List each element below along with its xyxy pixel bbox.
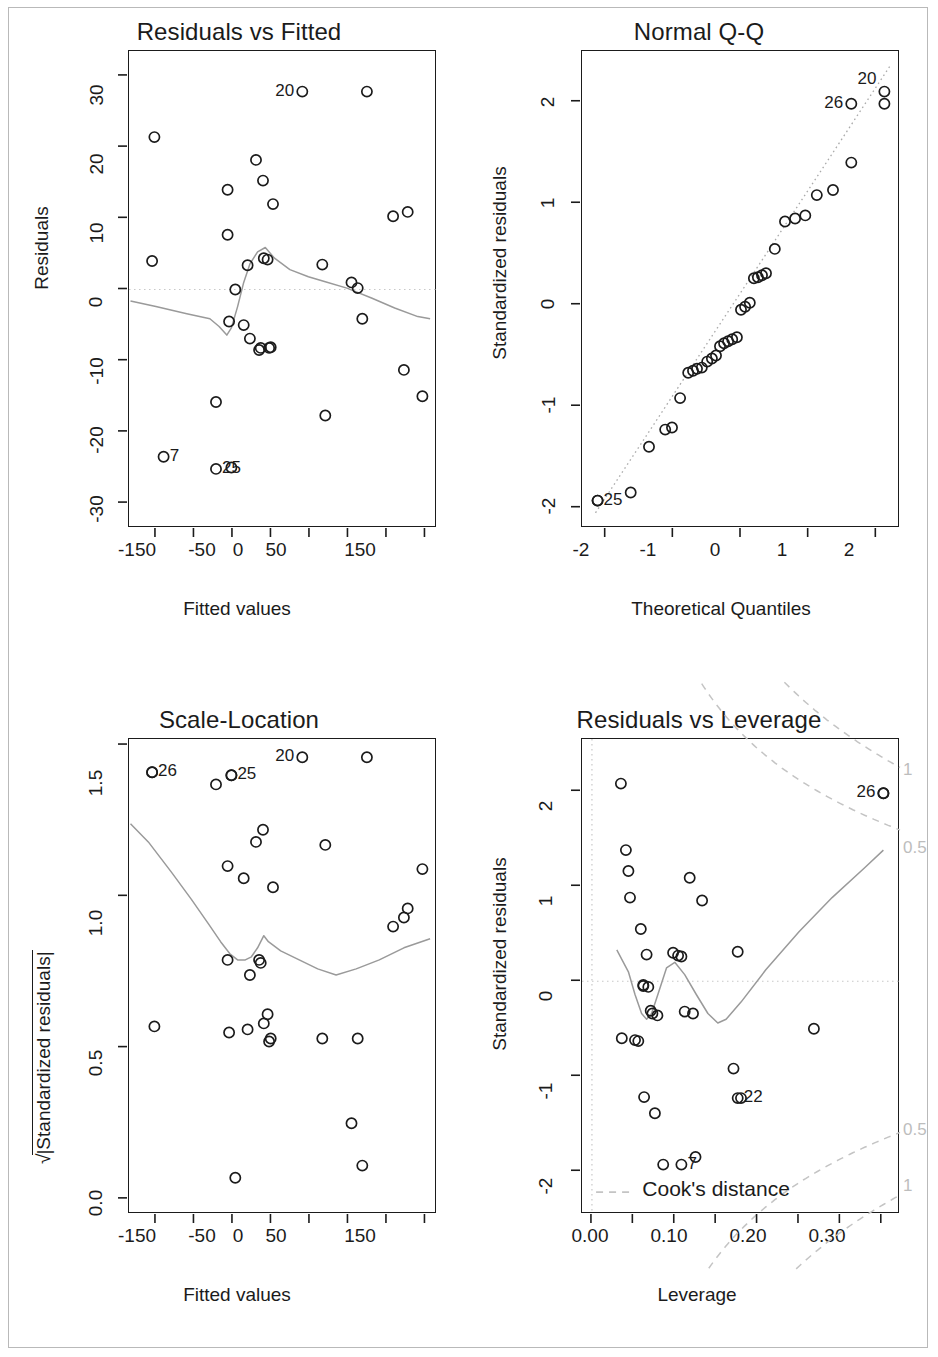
cook-contour-label: 1 xyxy=(903,1176,912,1196)
point-label: 22 xyxy=(744,1087,763,1107)
cook-contour-label: 0.5 xyxy=(903,838,927,858)
point-label: 7 xyxy=(687,1154,696,1174)
point-label: 25 xyxy=(222,458,241,478)
cook-contour-label: 0.5 xyxy=(903,1120,927,1140)
panel-residuals-vs-fitted: Residuals vs Fitted Residuals -30 -20 -1… xyxy=(9,8,469,668)
figure-frame: Residuals vs Fitted Residuals -30 -20 -1… xyxy=(8,7,928,1348)
point-label: 25 xyxy=(604,490,623,510)
point-label: 20 xyxy=(275,81,294,101)
point-label: 7 xyxy=(170,446,179,466)
panel-residuals-vs-leverage: Residuals vs Leverage Standardized resid… xyxy=(469,694,929,1349)
point-label: 20 xyxy=(275,746,294,766)
point-label: 26 xyxy=(824,93,843,113)
panel-normal-qq: Normal Q-Q Standardized residuals -2 -1 … xyxy=(469,8,929,668)
point-label: 26 xyxy=(856,782,875,802)
cook-contour-label: 1 xyxy=(903,760,912,780)
point-label: 20 xyxy=(857,69,876,89)
panel-scale-location: Scale-Location √|Standardized residuals|… xyxy=(9,694,469,1349)
point-label: 25 xyxy=(237,764,256,784)
point-label: 26 xyxy=(158,761,177,781)
cooks-distance-legend: Cook's distance xyxy=(642,1177,790,1201)
